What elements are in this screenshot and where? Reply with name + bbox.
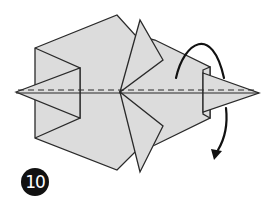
origami-diagram: 10: [0, 0, 275, 207]
arrowhead-icon: [211, 149, 222, 160]
step-number-badge: 10: [21, 168, 49, 196]
